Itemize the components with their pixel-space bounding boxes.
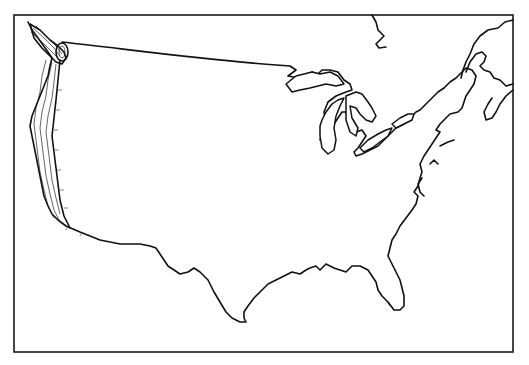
lake-huron [346,92,376,136]
long-island [440,140,454,146]
lake-erie [360,128,392,152]
hudson-bay-coast [372,15,386,48]
lake-michigan [320,98,344,154]
delaware-bay [430,160,438,164]
washington-coast-hatching [30,24,68,64]
map-frame [14,15,513,352]
gulf-st-lawrence-coast [466,52,513,86]
us-outline-map [0,0,529,365]
nova-scotia-coast [484,90,513,120]
lake-superior [286,72,344,92]
lake-ontario [392,114,414,128]
us-outline [28,22,476,322]
pacific-coast-bands [34,60,82,236]
